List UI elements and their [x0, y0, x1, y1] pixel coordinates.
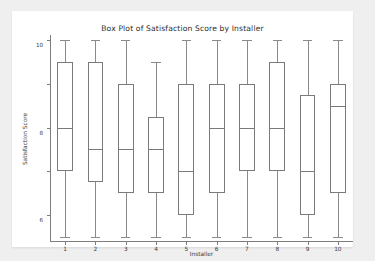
upper-whisker-cap — [333, 40, 342, 41]
x-tick-label: 10 — [334, 246, 341, 252]
lower-whisker-cap — [333, 237, 342, 238]
x-tick-label: 7 — [245, 246, 249, 252]
lower-whisker — [338, 193, 339, 237]
chart-title: Box Plot of Satisfaction Score by Instal… — [12, 24, 353, 33]
plot-area: 246810 12345678910 — [50, 35, 353, 242]
x-tick-mark — [95, 242, 96, 245]
x-tick-mark — [338, 242, 339, 245]
x-tick-label: 3 — [124, 246, 128, 252]
chart-figure-card: Box Plot of Satisfaction Score by Instal… — [12, 11, 353, 247]
x-tick-label: 8 — [275, 246, 279, 252]
x-tick-mark — [247, 242, 248, 245]
y-tick-label: 10 — [36, 42, 43, 48]
x-tick-label: 5 — [184, 246, 188, 252]
x-tick-label: 2 — [94, 246, 98, 252]
x-tick-mark — [308, 242, 309, 245]
x-tick-mark — [186, 242, 187, 245]
x-tick-mark — [65, 242, 66, 245]
box-plot-item — [50, 35, 353, 242]
y-tick-label: 8 — [39, 130, 43, 136]
median-line — [330, 106, 346, 107]
x-tick-label: 1 — [63, 246, 67, 252]
y-tick-label: 6 — [39, 217, 43, 223]
x-tick-mark — [217, 242, 218, 245]
x-tick-label: 6 — [215, 246, 219, 252]
upper-whisker — [338, 40, 339, 84]
x-tick-label: 4 — [154, 246, 158, 252]
x-tick-mark — [156, 242, 157, 245]
x-tick-mark — [277, 242, 278, 245]
box-iqr-rect — [330, 84, 346, 193]
screenshot-root: Box Plot of Satisfaction Score by Instal… — [0, 0, 375, 261]
x-tick-mark — [126, 242, 127, 245]
x-tick-label: 9 — [306, 246, 310, 252]
y-axis-title: Satisfaction Score — [22, 113, 28, 165]
